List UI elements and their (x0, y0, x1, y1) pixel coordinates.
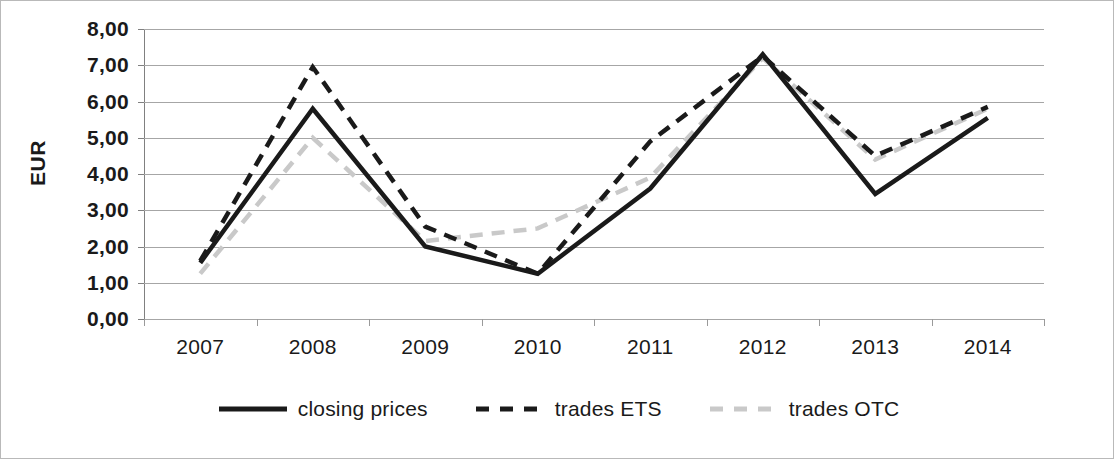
x-axis-tick-label: 2012 (739, 335, 787, 359)
legend-item[interactable]: trades ETS (474, 397, 662, 421)
legend-item[interactable]: closing prices (217, 397, 428, 421)
chart-figure: EUR 8,007,006,005,004,003,002,001,000,00… (0, 0, 1114, 459)
x-axis-tick (594, 319, 595, 326)
x-axis-tick-label: 2007 (176, 335, 224, 359)
y-axis-tick-label: 2,00 (57, 235, 129, 259)
legend-item[interactable]: trades OTC (708, 397, 900, 421)
plot-area (144, 29, 1044, 319)
y-axis-title: EUR (26, 118, 50, 208)
series-lines (144, 29, 1044, 319)
x-axis-tick (932, 319, 933, 326)
x-axis-tick (482, 319, 483, 326)
x-axis-tick (369, 319, 370, 326)
x-axis-tick-label: 2008 (289, 335, 337, 359)
x-axis-tick-label: 2010 (514, 335, 562, 359)
x-axis-tick (819, 319, 820, 326)
dashed-light-line-swatch (708, 402, 780, 416)
dashed-line-swatch (474, 402, 546, 416)
y-axis-tick-label: 3,00 (57, 198, 129, 222)
legend-label: trades ETS (555, 397, 662, 421)
y-axis-tick-label: 5,00 (57, 126, 129, 150)
solid-line-swatch (217, 402, 289, 416)
x-axis-tick (257, 319, 258, 326)
y-axis-tick-label: 4,00 (57, 162, 129, 186)
y-axis-tick-label: 6,00 (57, 90, 129, 114)
x-axis-tick-label: 2009 (401, 335, 449, 359)
y-axis-tick-label: 1,00 (57, 271, 129, 295)
x-axis-tick (1044, 319, 1045, 326)
chart-legend: closing pricestrades ETStrades OTC (1, 397, 1114, 421)
series-line-trades-otc (200, 58, 988, 274)
legend-label: trades OTC (789, 397, 900, 421)
y-axis-tick-label: 8,00 (57, 17, 129, 41)
x-axis-tick (144, 319, 145, 326)
x-axis-tick (707, 319, 708, 326)
series-line-closing-prices (200, 54, 988, 273)
x-axis-tick-label: 2014 (964, 335, 1012, 359)
legend-label: closing prices (298, 397, 428, 421)
x-axis-tick-label: 2011 (627, 335, 673, 359)
x-axis-tick-label: 2013 (851, 335, 899, 359)
y-axis-tick-label: 7,00 (57, 53, 129, 77)
series-line-trades-ets (200, 56, 988, 274)
y-axis-tick-label: 0,00 (57, 307, 129, 331)
